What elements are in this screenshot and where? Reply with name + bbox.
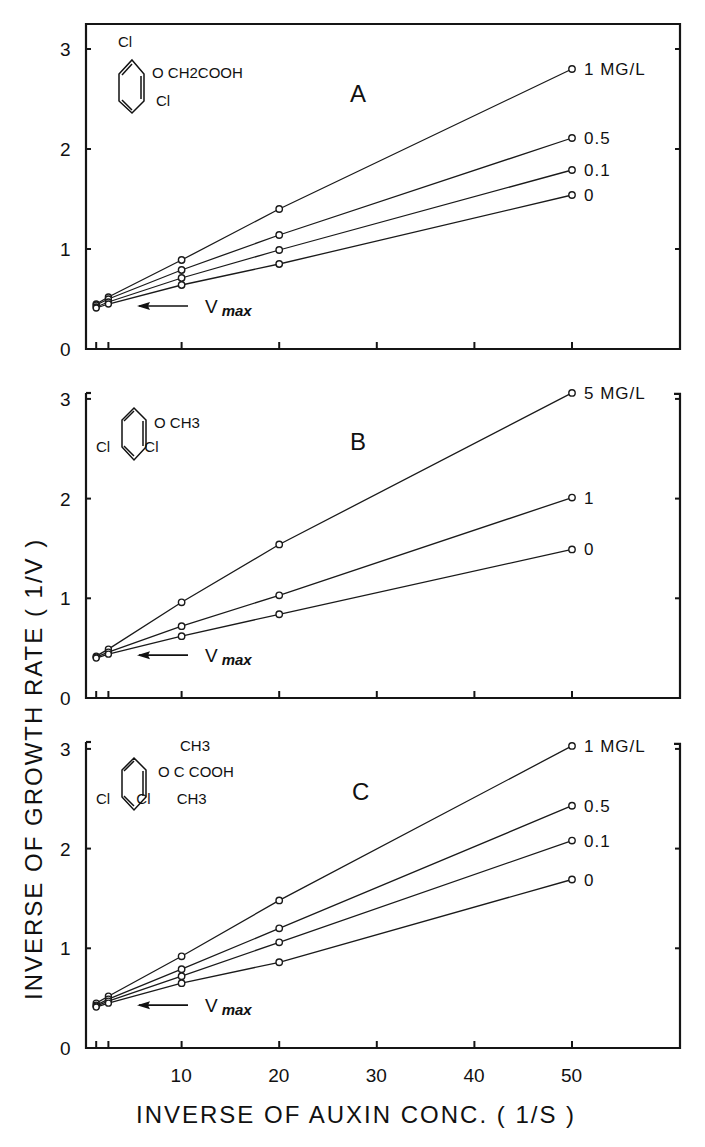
chem-substituent-top: Cl bbox=[118, 33, 132, 50]
series-label: 1 MG/L bbox=[584, 60, 646, 79]
chem-side-chain: O CH3 bbox=[154, 414, 200, 431]
x-tick-label: 30 bbox=[366, 1065, 387, 1086]
data-point bbox=[569, 192, 575, 198]
series-label: 1 MG/L bbox=[584, 737, 646, 756]
data-point bbox=[93, 1004, 99, 1010]
plot-area: 01235 MG/L10Vmax bbox=[60, 384, 680, 709]
data-point bbox=[569, 135, 575, 141]
data-point bbox=[178, 953, 184, 959]
y-tick-label: 2 bbox=[60, 839, 71, 860]
data-point bbox=[178, 623, 184, 629]
y-tick-label: 3 bbox=[60, 739, 71, 760]
data-point bbox=[178, 599, 184, 605]
y-tick-label: 1 bbox=[60, 239, 71, 260]
data-point bbox=[178, 980, 184, 986]
chem-side-chain: O CH2COOH bbox=[152, 64, 243, 81]
data-point bbox=[276, 592, 282, 598]
data-point bbox=[105, 651, 111, 657]
y-tick-label: 0 bbox=[60, 688, 71, 709]
data-point bbox=[93, 305, 99, 311]
series-label: 0.5 bbox=[584, 129, 611, 148]
x-tick-label: 20 bbox=[268, 1065, 289, 1086]
y-tick-label: 0 bbox=[60, 1038, 71, 1059]
data-point bbox=[569, 837, 575, 843]
data-point bbox=[178, 966, 184, 972]
data-point bbox=[569, 803, 575, 809]
data-point bbox=[569, 66, 575, 72]
x-tick-label: 10 bbox=[171, 1065, 192, 1086]
chem-substituent-top: CH3 bbox=[180, 737, 210, 754]
y-tick-label: 2 bbox=[60, 489, 71, 510]
series-label: 0 bbox=[584, 186, 594, 205]
data-point bbox=[569, 494, 575, 500]
series-line bbox=[96, 880, 572, 1008]
series-label: 0 bbox=[584, 871, 594, 890]
x-tick-label: 40 bbox=[463, 1065, 484, 1086]
data-point bbox=[276, 247, 282, 253]
chem-substituent-bottom: Cl Cl CH3 bbox=[96, 790, 207, 807]
panel-c: C CH3 O C COOH Cl Cl CH3 bbox=[96, 737, 369, 810]
series: 0.1 bbox=[93, 832, 610, 1010]
x-axis-title: INVERSE OF AUXIN CONC. ( 1/S ) bbox=[136, 1101, 576, 1128]
chemical-structure: O CH3 Cl Cl bbox=[96, 408, 200, 460]
vmax-annotation: Vmax bbox=[137, 296, 252, 319]
data-point bbox=[276, 925, 282, 931]
series-label: 0.1 bbox=[584, 161, 611, 180]
series-line bbox=[96, 393, 572, 656]
data-point bbox=[105, 1000, 111, 1006]
series: 0 bbox=[93, 540, 594, 661]
axes-frame bbox=[86, 742, 680, 1048]
data-point bbox=[276, 261, 282, 267]
data-point bbox=[276, 232, 282, 238]
data-point bbox=[276, 939, 282, 945]
lineweaver-burk-figure: A Cl O CH2COOH Cl B O CH3 Cl Cl C CH3 bbox=[0, 0, 705, 1147]
chemical-structure: Cl O CH2COOH Cl bbox=[118, 33, 243, 113]
data-point bbox=[93, 655, 99, 661]
plot-layers: 01231 MG/L0.50.10Vmax01235 MG/L10Vmax012… bbox=[60, 24, 680, 1086]
svg-text:Vmax: Vmax bbox=[205, 645, 252, 668]
series: 1 MG/L bbox=[93, 60, 646, 307]
data-point bbox=[569, 876, 575, 882]
chem-side-chain: O C COOH bbox=[158, 763, 234, 780]
data-point bbox=[276, 959, 282, 965]
y-tick-label: 3 bbox=[60, 389, 71, 410]
data-point bbox=[276, 206, 282, 212]
svg-text:Vmax: Vmax bbox=[205, 296, 252, 319]
series-line bbox=[96, 170, 572, 307]
series-line bbox=[96, 498, 572, 657]
data-point bbox=[276, 541, 282, 547]
series: 0.5 bbox=[93, 797, 610, 1008]
chem-substituent-bottom: Cl bbox=[156, 92, 170, 109]
data-point bbox=[569, 546, 575, 552]
series-line bbox=[96, 195, 572, 308]
series: 0 bbox=[93, 186, 594, 311]
panel-label: A bbox=[350, 80, 366, 107]
chem-substituent-bottom: Cl Cl bbox=[96, 438, 159, 455]
data-point bbox=[178, 282, 184, 288]
data-point bbox=[569, 390, 575, 396]
data-point bbox=[276, 611, 282, 617]
y-tick-label: 0 bbox=[60, 339, 71, 360]
data-point bbox=[569, 167, 575, 173]
data-point bbox=[178, 257, 184, 263]
x-tick-label: 50 bbox=[561, 1065, 582, 1086]
vmax-annotation: Vmax bbox=[137, 645, 252, 668]
series-label: 0.1 bbox=[584, 832, 611, 851]
panel-a: A Cl O CH2COOH Cl bbox=[118, 33, 366, 113]
series-line bbox=[96, 841, 572, 1007]
series-label: 0.5 bbox=[584, 797, 611, 816]
data-point bbox=[276, 897, 282, 903]
data-point bbox=[569, 743, 575, 749]
series-line bbox=[96, 746, 572, 1003]
series-line bbox=[96, 138, 572, 305]
series-line bbox=[96, 806, 572, 1005]
panel-b: B O CH3 Cl Cl bbox=[96, 408, 366, 460]
svg-text:Vmax: Vmax bbox=[205, 995, 252, 1018]
data-point bbox=[178, 973, 184, 979]
data-point bbox=[105, 301, 111, 307]
y-tick-label: 3 bbox=[60, 39, 71, 60]
y-tick-label: 1 bbox=[60, 938, 71, 959]
chemical-structure: CH3 O C COOH Cl Cl CH3 bbox=[96, 737, 234, 810]
y-tick-label: 1 bbox=[60, 588, 71, 609]
data-point bbox=[178, 275, 184, 281]
